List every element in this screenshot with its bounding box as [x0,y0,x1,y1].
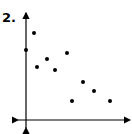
data-points [24,31,112,103]
data-point [24,48,28,52]
data-point [81,80,85,84]
data-point [108,99,112,103]
data-point [92,89,96,93]
scatter-plot [0,0,132,134]
data-point [35,65,39,69]
data-point [32,31,36,35]
data-point [65,51,69,55]
data-point [70,99,74,103]
data-point [45,57,49,61]
data-point [53,68,57,72]
